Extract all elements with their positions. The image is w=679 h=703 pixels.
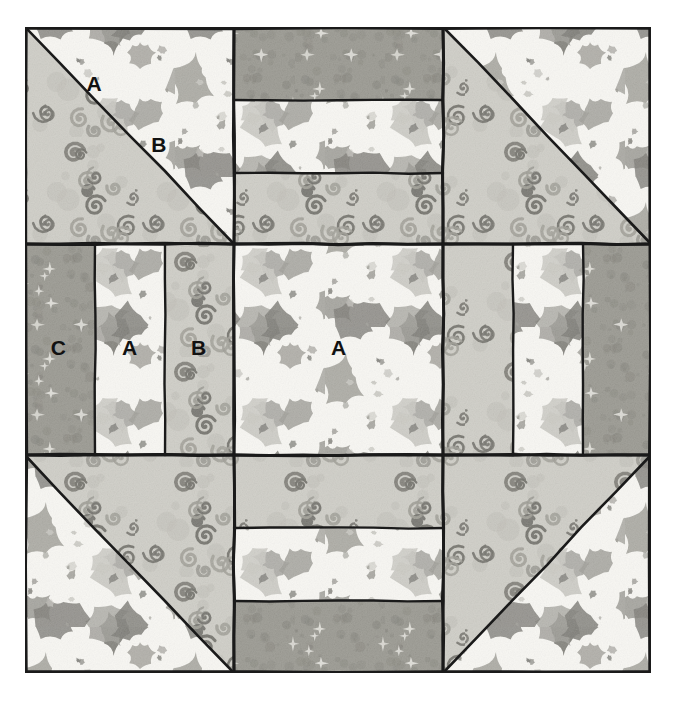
quilt-unit-bottom-center [234, 455, 443, 673]
quilt-block-svg: ABCABA [25, 27, 651, 673]
fabric-label-b-top-left: B [151, 133, 166, 156]
fabric-label-a-center: A [331, 336, 346, 359]
fabric-label-a-top-left: A [86, 72, 101, 95]
quilt-unit-middle-right [443, 244, 651, 455]
quilt-block: ABCABA [25, 27, 651, 673]
fabric-label-a-middle-left: A [122, 336, 137, 359]
quilt-unit-top-center [234, 27, 443, 244]
fabric-label-b-middle-left: B [191, 336, 206, 359]
quilt-diagram-canvas: ABCABA [0, 0, 679, 703]
fabric-label-c-middle-left: C [51, 336, 66, 359]
